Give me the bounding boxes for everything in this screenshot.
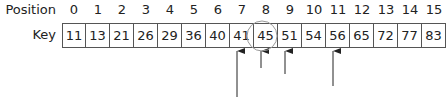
highlight-circle — [247, 21, 277, 51]
annotation-layer — [0, 0, 447, 101]
